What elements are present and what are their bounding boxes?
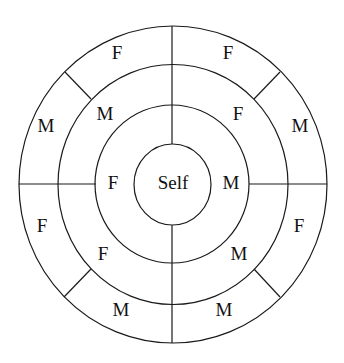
outer-label-bottom-right: M (216, 299, 233, 320)
divider-lower-right (254, 269, 280, 297)
divider-upper-right (254, 72, 280, 99)
self-label: Self (158, 172, 189, 193)
middle-label-lower-left: F (98, 243, 109, 264)
outer-label-left-upper: M (38, 115, 55, 136)
kinship-diagram: Self F M M F F M F F M M F F M M (0, 0, 344, 363)
inner-label-left: F (108, 172, 119, 193)
outer-label-top-left: F (112, 42, 123, 63)
outer-label-top-right: F (223, 42, 234, 63)
divider-lower-left (64, 269, 91, 297)
middle-label-upper-right: F (233, 103, 244, 124)
outer-label-right-upper: M (292, 115, 309, 136)
inner-label-right: M (223, 172, 240, 193)
outer-label-bottom-left: M (113, 299, 130, 320)
outer-label-right-lower: F (294, 215, 305, 236)
middle-label-lower-right: M (231, 243, 248, 264)
middle-label-upper-left: M (97, 103, 114, 124)
outer-label-left-lower: F (37, 215, 48, 236)
divider-upper-left (65, 72, 91, 99)
